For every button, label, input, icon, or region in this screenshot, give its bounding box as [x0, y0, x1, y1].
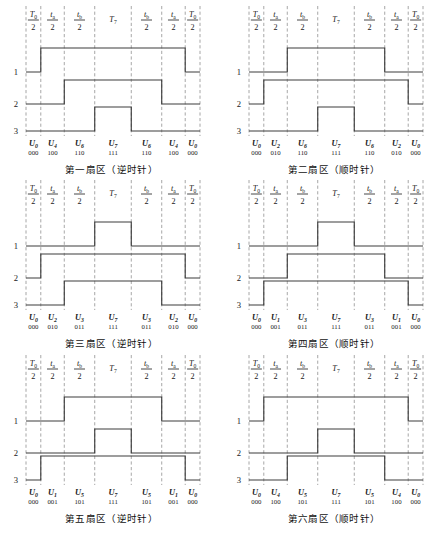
segment-denominator-5: 2 [171, 197, 175, 206]
segment-time-label-3: T7 [109, 15, 117, 25]
vector-label-1: U2 [48, 313, 57, 323]
vector-bits-4: 011 [142, 323, 152, 330]
channel-label-2: 2 [14, 448, 18, 458]
vector-bits-0: 000 [28, 149, 39, 156]
segment-time-label-3: T7 [332, 364, 340, 374]
segment-time-label-4: tb [367, 10, 372, 20]
segment-time-label-4: tb [367, 359, 372, 369]
segment-time-label-4: tb [144, 10, 149, 20]
vector-label-0: U0 [252, 139, 261, 149]
vector-label-5: U1 [169, 488, 178, 498]
vector-bits-5: 001 [391, 323, 401, 330]
segment-time-label-1: ta [273, 184, 278, 194]
vector-bits-5: 001 [168, 498, 178, 505]
vector-label-5: U2 [169, 313, 178, 323]
vector-label-0: U0 [252, 488, 261, 498]
vector-label-4: U3 [142, 313, 151, 323]
segment-denominator-6: 2 [191, 23, 195, 32]
vector-label-2: U3 [298, 313, 307, 323]
channel-label-3: 3 [14, 475, 18, 485]
segment-time-label-1: ta [273, 359, 278, 369]
waveform-channel-3 [26, 281, 200, 305]
vector-bits-1: 010 [47, 323, 58, 330]
vector-label-4: U5 [365, 488, 374, 498]
channel-label-2: 2 [237, 99, 241, 109]
vector-label-1: U4 [48, 139, 57, 149]
waveform-channel-3 [249, 107, 423, 131]
segment-time-label-6: T0 [412, 10, 420, 20]
vector-bits-2: 101 [297, 498, 307, 505]
segment-denominator-5: 2 [394, 372, 398, 381]
vector-bits-5: 010 [391, 149, 402, 156]
segment-time-label-0: T0 [30, 359, 38, 369]
segment-time-label-5: ta [171, 359, 176, 369]
segment-time-label-2: tb [77, 184, 82, 194]
segment-time-label-5: ta [394, 359, 399, 369]
vector-label-6: U0 [188, 139, 197, 149]
vector-label-3: U7 [109, 488, 119, 498]
vector-bits-2: 101 [74, 498, 84, 505]
panel-caption: 第六扇区（顺时针） [223, 511, 445, 525]
segment-time-label-5: ta [394, 10, 399, 20]
vector-bits-6: 000 [188, 149, 199, 156]
channel-label-1: 1 [237, 67, 241, 77]
channel-label-1: 1 [14, 241, 18, 251]
segment-denominator-1: 2 [50, 197, 54, 206]
vector-bits-3: 111 [331, 149, 341, 156]
vector-label-3: U7 [332, 139, 342, 149]
segment-denominator-1: 2 [50, 23, 54, 32]
segment-time-label-0: T0 [253, 10, 261, 20]
vector-label-3: U7 [332, 488, 342, 498]
waveform-channel-3 [26, 107, 200, 131]
waveform-channel-1 [249, 397, 423, 421]
panel-sector-2: T02ta2tb2T7tb2ta2T02123U0000U2010U6110U7… [223, 0, 445, 174]
vector-label-0: U0 [29, 488, 38, 498]
segment-time-label-0: T0 [253, 184, 261, 194]
segment-denominator-4: 2 [367, 197, 371, 206]
vector-label-0: U0 [29, 139, 38, 149]
segment-denominator-2: 2 [77, 23, 81, 32]
waveform-channel-1 [26, 48, 200, 72]
segment-time-label-0: T0 [253, 359, 261, 369]
vector-label-1: U4 [271, 488, 280, 498]
waveform-channel-1 [26, 222, 200, 246]
waveform-chart: T02ta2tb2T7tb2ta2T02123U0000U1001U5101U7… [0, 349, 222, 513]
vector-label-0: U0 [252, 313, 261, 323]
vector-label-5: U4 [169, 139, 178, 149]
vector-bits-2: 110 [75, 149, 86, 156]
channel-label-2: 2 [14, 273, 18, 283]
panel-caption: 第三扇区（逆时针） [0, 336, 223, 350]
vector-bits-1: 001 [270, 323, 280, 330]
segment-denominator-5: 2 [394, 197, 398, 206]
waveform-channel-2 [249, 80, 423, 104]
segment-time-label-3: T7 [109, 364, 117, 374]
waveform-chart: T02ta2tb2T7tb2ta2T02123U0000U4100U6110U7… [0, 0, 222, 164]
vector-label-5: U2 [392, 139, 401, 149]
waveform-channel-2 [249, 429, 423, 453]
vector-bits-0: 000 [251, 498, 262, 505]
segment-time-label-5: ta [171, 184, 176, 194]
vector-label-4: U5 [142, 488, 151, 498]
segment-denominator-1: 2 [273, 197, 277, 206]
vector-label-6: U0 [188, 488, 197, 498]
vector-label-6: U0 [411, 139, 420, 149]
segment-time-label-2: tb [77, 10, 82, 20]
segment-denominator-1: 2 [50, 372, 54, 381]
vector-label-2: U3 [75, 313, 84, 323]
segment-time-label-2: tb [77, 359, 82, 369]
vector-bits-1: 001 [47, 498, 57, 505]
segment-denominator-4: 2 [144, 372, 148, 381]
panel-caption: 第四扇区（顺时针） [223, 336, 445, 350]
vector-bits-4: 101 [364, 498, 374, 505]
vector-bits-3: 111 [331, 498, 341, 505]
vector-bits-5: 010 [168, 323, 179, 330]
waveform-channel-1 [249, 48, 423, 72]
channel-label-3: 3 [14, 300, 18, 310]
segment-time-label-1: ta [50, 184, 55, 194]
waveform-channel-1 [26, 397, 200, 421]
vector-bits-4: 101 [141, 498, 151, 505]
vector-label-6: U0 [411, 313, 420, 323]
segment-denominator-5: 2 [171, 372, 175, 381]
channel-label-2: 2 [237, 448, 241, 458]
channel-label-1: 1 [237, 241, 241, 251]
